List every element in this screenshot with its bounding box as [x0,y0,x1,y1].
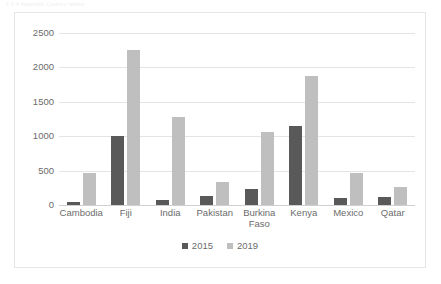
x-axis-tick-label: Fiji [104,207,149,229]
category-axis: CambodiaFijiIndiaPakistanBurkina FasoKen… [59,207,415,229]
x-axis-tick-label: Cambodia [59,207,104,229]
axis-baseline: 0 [59,205,415,206]
bar-2015[interactable] [378,197,391,205]
bar-2019[interactable] [172,117,185,205]
chart-frame: 05001000150020002500 CambodiaFijiIndiaPa… [14,12,426,268]
legend-label: 2019 [237,241,258,251]
bar-2019[interactable] [216,182,229,205]
y-axis-tick-label: 1000 [33,131,54,141]
x-axis-tick-label: Burkina Faso [237,207,282,229]
bar-group [282,33,327,205]
bar-group [326,33,371,205]
legend-entry-2019[interactable]: 2019 [227,241,258,251]
y-axis-tick-label: 0 [49,200,54,210]
x-axis-tick-label: Kenya [282,207,327,229]
bar-group [148,33,193,205]
bar-2019[interactable] [305,76,318,205]
bar-group [104,33,149,205]
bar-2015[interactable] [111,136,124,205]
legend-swatch-icon [182,243,188,249]
bar-2019[interactable] [350,173,363,205]
bar-group [237,33,282,205]
legend-label: 2015 [192,241,213,251]
page-header-strip: 1 0 4 Appendix Country tables [0,0,441,8]
bar-group [371,33,416,205]
bars-layer [59,33,415,205]
y-axis-tick-label: 500 [38,166,54,176]
bar-2015[interactable] [334,198,347,205]
bar-2015[interactable] [156,200,169,205]
y-axis-tick-label: 2000 [33,63,54,73]
bar-2019[interactable] [127,50,140,205]
x-axis-tick-label: Qatar [371,207,416,229]
bar-group [59,33,104,205]
y-axis-tick-label: 1500 [33,97,54,107]
x-axis-tick-label: Mexico [326,207,371,229]
bar-2015[interactable] [67,202,80,205]
bar-2015[interactable] [245,189,258,206]
legend-entry-2015[interactable]: 2015 [182,241,213,251]
plot-area: 05001000150020002500 [59,33,415,205]
bar-2015[interactable] [200,196,213,205]
bar-2019[interactable] [83,173,96,205]
bar-2019[interactable] [261,132,274,205]
bar-group [193,33,238,205]
chart-legend: 20152019 [15,241,425,251]
x-axis-tick-label: Pakistan [193,207,238,229]
bar-2019[interactable] [394,187,407,205]
legend-swatch-icon [227,243,233,249]
x-axis-tick-label: India [148,207,193,229]
y-axis-tick-label: 2500 [33,28,54,38]
bar-2015[interactable] [289,126,302,205]
